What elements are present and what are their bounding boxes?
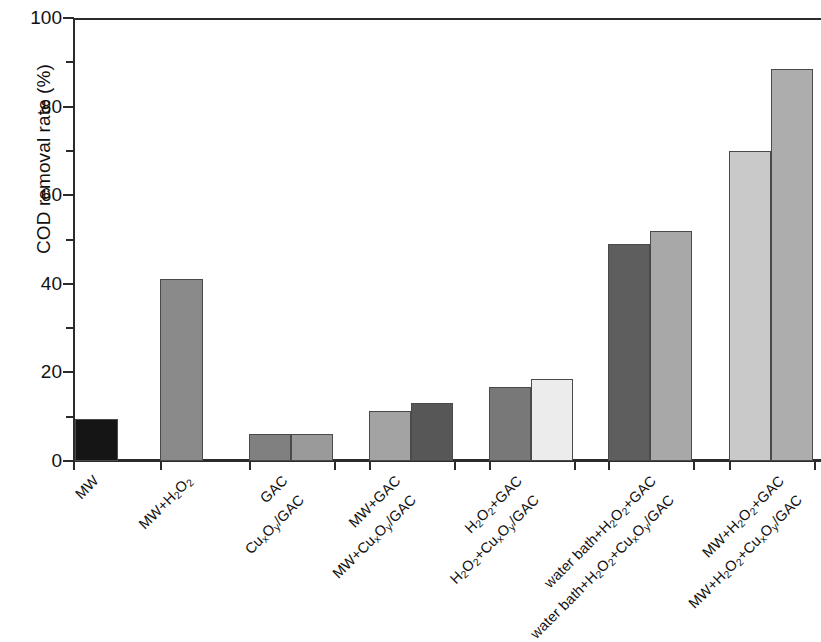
- x-label-mw-h2o2: MW+H2O2: [0, 473, 196, 642]
